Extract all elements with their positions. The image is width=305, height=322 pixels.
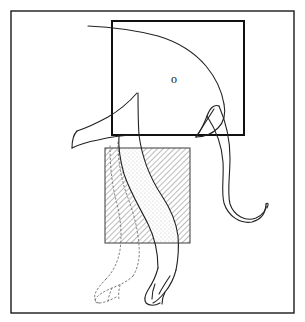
figure-root: o: [0, 0, 305, 322]
elephant-figure-svg: o: [0, 0, 305, 322]
elephant-eye: o: [171, 72, 177, 86]
